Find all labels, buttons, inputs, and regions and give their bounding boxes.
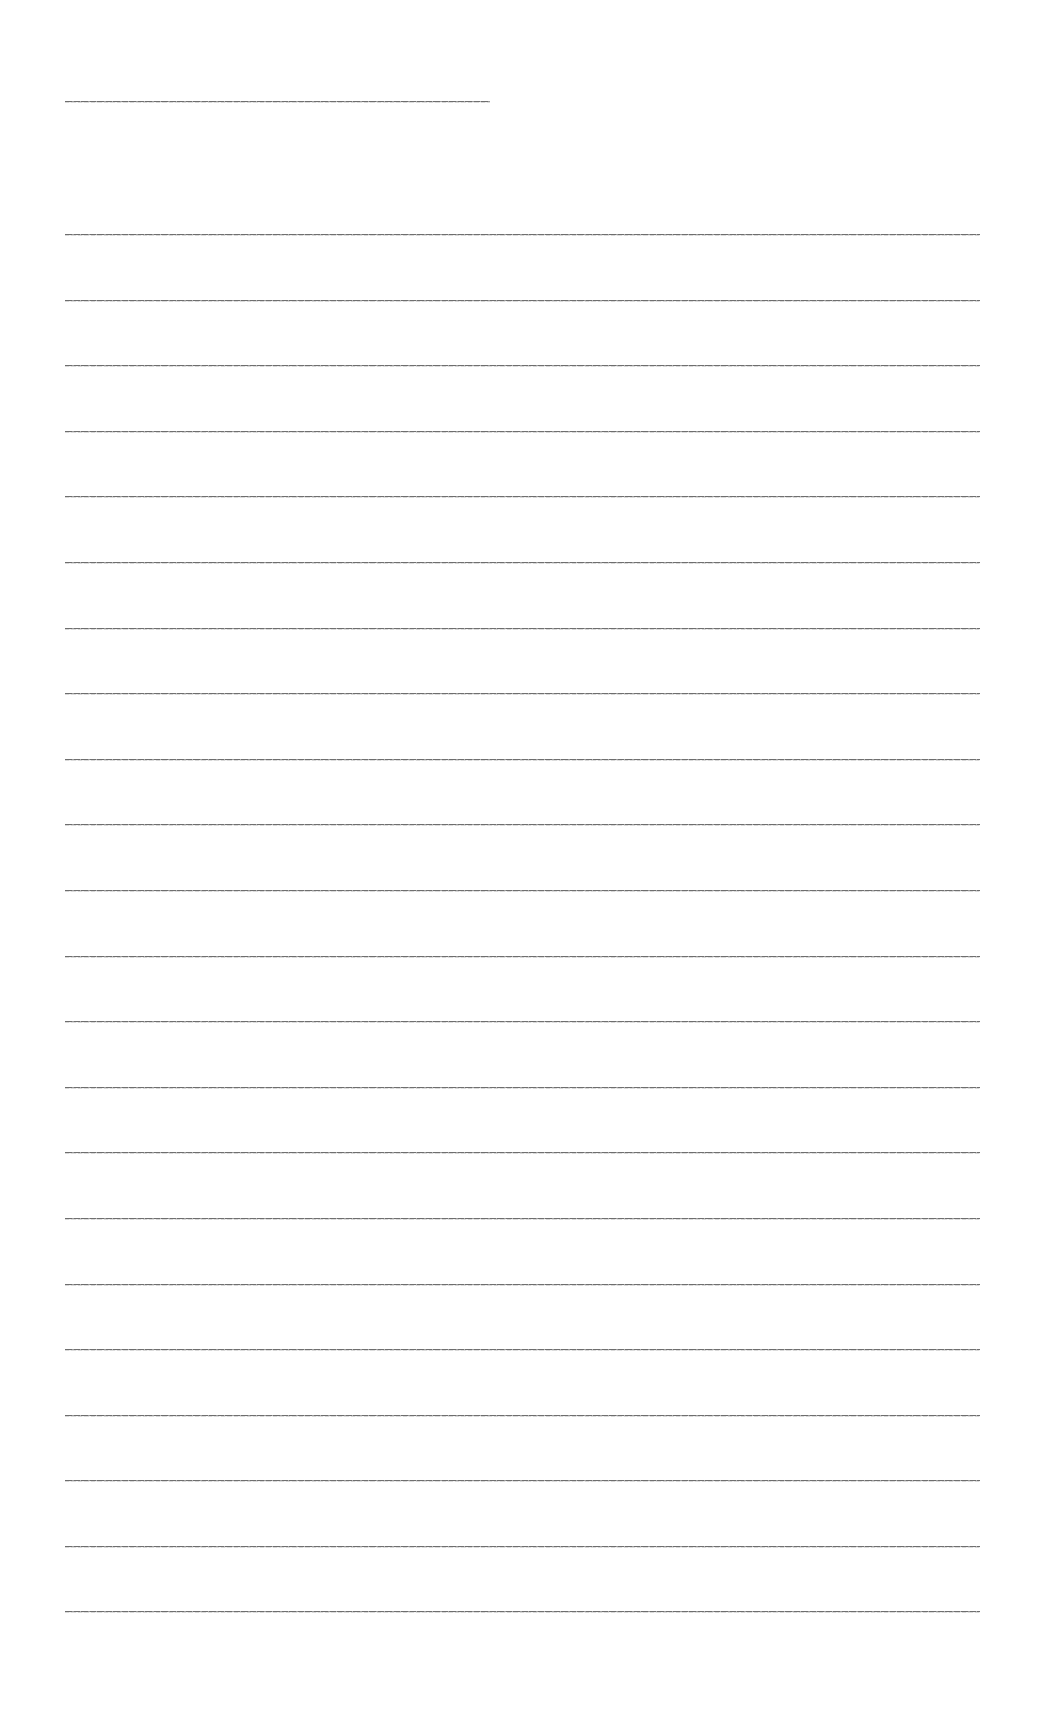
line-text: [illegible line 5] [65, 495, 980, 498]
line-text: [illegible line 12] [65, 955, 980, 958]
body-line: [illegible line 21] [65, 1546, 980, 1549]
line-text: [illegible line 15] [65, 1151, 980, 1154]
body-line: [illegible line 19] [65, 1415, 980, 1418]
body-line: [illegible line 8] [65, 693, 980, 696]
body-line: [illegible line 1] [65, 234, 980, 237]
body-line: [illegible line 16] [65, 1218, 980, 1221]
document-body: [illegible line 1] [illegible line 2] [i… [65, 234, 980, 1677]
line-text: [illegible line 21] [65, 1545, 980, 1548]
line-text: [illegible line 2] [65, 299, 980, 302]
body-line: [illegible line 14] [65, 1087, 980, 1090]
line-text: [illegible line 20] [65, 1479, 980, 1482]
body-line: [illegible line 9] [65, 759, 980, 762]
document-page: [illegible heading text] [illegible line… [0, 0, 1038, 1720]
line-text: [illegible line 18] [65, 1348, 980, 1351]
line-text: [illegible line 13] [65, 1020, 980, 1023]
body-line: [illegible line 10] [65, 824, 980, 827]
line-text: [illegible line 19] [65, 1414, 980, 1417]
body-line: [illegible line 3] [65, 365, 980, 368]
body-line: [illegible line 6] [65, 562, 980, 565]
document-heading: [illegible heading text] [65, 101, 490, 104]
line-text: [illegible line 7] [65, 627, 980, 630]
line-text: [illegible line 22] [65, 1610, 980, 1613]
line-text: [illegible line 6] [65, 561, 980, 564]
body-line: [illegible line 15] [65, 1152, 980, 1155]
line-text: [illegible line 17] [65, 1283, 980, 1286]
body-line: [illegible line 13] [65, 1021, 980, 1024]
line-text: [illegible line 16] [65, 1217, 980, 1220]
line-text: [illegible line 14] [65, 1086, 980, 1089]
line-text: [illegible line 1] [65, 233, 980, 236]
body-line: [illegible line 2] [65, 300, 980, 303]
body-line: [illegible line 17] [65, 1284, 980, 1287]
body-line: [illegible line 7] [65, 628, 980, 631]
line-text: [illegible line 10] [65, 823, 980, 826]
line-text: [illegible line 8] [65, 692, 980, 695]
body-line: [illegible line 4] [65, 431, 980, 434]
body-line: [illegible line 22] [65, 1611, 980, 1614]
body-line: [illegible line 12] [65, 956, 980, 959]
line-text: [illegible line 9] [65, 758, 980, 761]
line-text: [illegible line 4] [65, 430, 980, 433]
body-line: [illegible line 5] [65, 496, 980, 499]
body-line: [illegible line 18] [65, 1349, 980, 1352]
line-text: [illegible line 3] [65, 364, 980, 367]
line-text: [illegible line 11] [65, 889, 980, 892]
body-line: [illegible line 20] [65, 1480, 980, 1483]
heading-text: [illegible heading text] [65, 100, 490, 103]
body-line: [illegible line 11] [65, 890, 980, 893]
